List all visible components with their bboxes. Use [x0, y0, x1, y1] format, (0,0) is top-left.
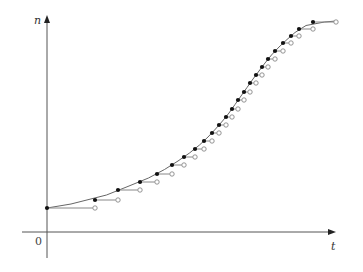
filled-dot-endpoint: [230, 107, 234, 111]
filled-dot-endpoint: [248, 81, 252, 85]
filled-dot-endpoint: [116, 188, 120, 192]
step-approximation-chart: n t 0: [0, 0, 363, 272]
filled-dot-endpoint: [193, 147, 197, 151]
open-circle-endpoint: [182, 163, 186, 167]
open-circle-endpoint: [248, 90, 252, 94]
filled-dot-endpoint: [254, 73, 258, 77]
filled-dot-endpoint: [289, 34, 293, 38]
open-circle-endpoint: [224, 123, 228, 127]
open-circle-endpoint: [155, 180, 159, 184]
filled-dot-endpoint: [273, 49, 277, 53]
filled-dot-endpoint: [45, 206, 49, 210]
open-circle-endpoint: [210, 139, 214, 143]
n-axis-arrow-icon: [44, 15, 50, 23]
open-circle-endpoint: [202, 147, 206, 151]
open-circle-endpoint: [138, 188, 142, 192]
filled-dot-endpoint: [260, 65, 264, 69]
t-axis-label: t: [331, 240, 336, 253]
open-circle-endpoint: [242, 98, 246, 102]
filled-dot-endpoint: [224, 115, 228, 119]
step-function: [45, 20, 338, 210]
filled-dot-endpoint: [297, 27, 301, 31]
open-circle-endpoint: [217, 131, 221, 135]
open-circle-endpoint: [266, 65, 270, 69]
filled-dot-endpoint: [170, 163, 174, 167]
filled-dot-endpoint: [138, 180, 142, 184]
axes: n t 0: [22, 14, 336, 258]
filled-dot-endpoint: [93, 198, 97, 202]
open-circle-endpoint: [170, 172, 174, 176]
open-circle-endpoint: [297, 34, 301, 38]
origin-label: 0: [35, 235, 42, 248]
filled-dot-endpoint: [155, 172, 159, 176]
filled-dot-endpoint: [202, 139, 206, 143]
t-axis-arrow-icon: [328, 229, 336, 235]
open-circle-endpoint: [273, 57, 277, 61]
smooth-curve: [47, 21, 336, 208]
open-circle-endpoint: [254, 81, 258, 85]
open-circle-endpoint: [236, 107, 240, 111]
filled-dot-endpoint: [210, 131, 214, 135]
filled-dot-endpoint: [242, 90, 246, 94]
open-circle-endpoint: [334, 20, 338, 24]
open-circle-endpoint: [116, 198, 120, 202]
n-axis-label: n: [34, 14, 41, 27]
filled-dot-endpoint: [236, 98, 240, 102]
open-circle-endpoint: [260, 73, 264, 77]
filled-dot-endpoint: [281, 41, 285, 45]
open-circle-endpoint: [93, 206, 97, 210]
filled-dot-endpoint: [217, 123, 221, 127]
open-circle-endpoint: [230, 115, 234, 119]
filled-dot-endpoint: [266, 57, 270, 61]
open-circle-endpoint: [193, 155, 197, 159]
filled-dot-endpoint: [311, 20, 315, 24]
open-circle-endpoint: [281, 49, 285, 53]
open-circle-endpoint: [311, 27, 315, 31]
filled-dot-endpoint: [182, 155, 186, 159]
open-circle-endpoint: [289, 41, 293, 45]
